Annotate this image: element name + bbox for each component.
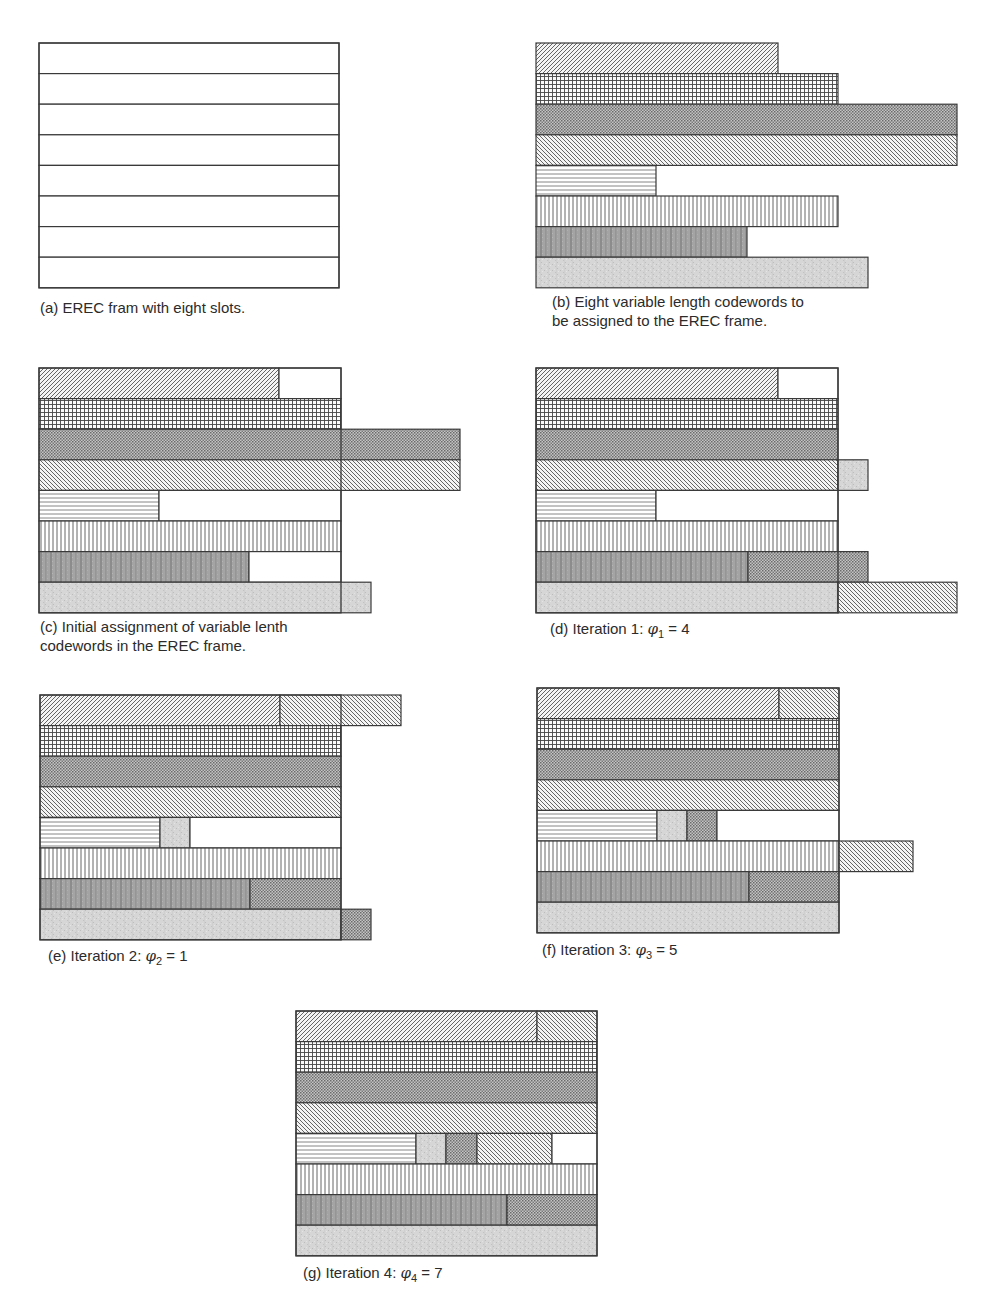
slot-row-8	[296, 1225, 597, 1256]
slot-row-5	[536, 165, 656, 196]
phi-symbol: φ	[401, 1264, 412, 1282]
slot-row-6	[537, 841, 913, 872]
slot-row-7	[536, 552, 868, 583]
codeword-1-forward-diagonal-hatch	[39, 368, 279, 399]
codeword-3-dark-crosshatch	[507, 1195, 597, 1226]
codeword-1-forward-diagonal-hatch	[536, 43, 778, 74]
codeword-8-light-grey-mottle	[537, 902, 839, 933]
codeword-3-dark-crosshatch	[537, 749, 839, 780]
codeword-7-dark-vertical-mottle	[40, 879, 250, 910]
codeword-3-dark-crosshatch	[40, 756, 341, 787]
slot-row-7	[39, 552, 341, 583]
caption-f: (f) Iteration 3: φ3 = 5	[542, 940, 677, 960]
codeword-6-vertical-lines	[40, 848, 341, 879]
empty-slot	[717, 810, 839, 841]
panel-a	[39, 43, 339, 288]
codeword-4-backward-diagonal-hatch	[39, 460, 460, 491]
empty-slot	[39, 165, 339, 196]
slot-row-1	[296, 1011, 597, 1042]
caption-b-line-2: be assigned to the EREC frame.	[552, 311, 804, 330]
codeword-2-fine-grid-hatch	[40, 726, 341, 757]
codeword-3-dark-crosshatch	[536, 429, 838, 460]
codeword-3-dark-crosshatch	[749, 872, 839, 903]
erec-diagram-svg	[0, 0, 995, 1311]
codeword-7-dark-vertical-mottle	[536, 552, 748, 583]
codeword-7-dark-vertical-mottle	[296, 1195, 507, 1226]
phi-symbol: φ	[635, 941, 646, 959]
slot-row-7	[296, 1195, 597, 1226]
slot-row-2	[536, 74, 838, 105]
codeword-5-horizontal-lines	[296, 1133, 416, 1164]
slot-row-3	[40, 756, 341, 787]
codeword-1-forward-diagonal-hatch	[40, 695, 280, 726]
empty-slot	[249, 552, 341, 583]
caption-g-text: (g) Iteration 4:	[303, 1264, 401, 1281]
slot-row-5	[296, 1133, 597, 1164]
codeword-5-horizontal-lines	[536, 490, 656, 521]
slot-row-4	[296, 1103, 597, 1134]
empty-slot	[159, 490, 341, 521]
codeword-4-backward-diagonal-hatch	[536, 460, 838, 491]
caption-b: (b) Eight variable length codewords to b…	[552, 292, 804, 330]
codeword-4-backward-diagonal-hatch	[40, 787, 341, 818]
codeword-2-fine-grid-hatch	[537, 719, 839, 750]
slot-row-8	[39, 582, 371, 613]
codeword-5-horizontal-lines	[537, 810, 657, 841]
caption-b-line-1: (b) Eight variable length codewords to	[552, 292, 804, 311]
empty-slot	[39, 74, 339, 105]
phi-symbol: φ	[146, 947, 157, 965]
codeword-6-vertical-lines	[536, 521, 838, 552]
caption-c-line-2: codewords in the EREC frame.	[40, 636, 288, 655]
codeword-3-dark-crosshatch	[446, 1133, 477, 1164]
slot-row-8	[39, 257, 339, 288]
codeword-1-forward-diagonal-hatch	[536, 368, 778, 399]
phi-value: = 1	[162, 947, 187, 964]
slot-row-7	[39, 227, 339, 258]
caption-f-text: (f) Iteration 3:	[542, 941, 635, 958]
slot-row-2	[39, 399, 341, 430]
slot-row-1	[537, 688, 839, 719]
slot-row-3	[39, 429, 460, 460]
slot-row-4	[537, 780, 839, 811]
panel-c	[39, 368, 460, 613]
codeword-7-dark-vertical-mottle	[536, 227, 747, 258]
slot-row-2	[296, 1042, 597, 1073]
codeword-2-fine-grid-hatch	[536, 74, 838, 105]
slot-row-6	[296, 1164, 597, 1195]
codeword-3-dark-crosshatch	[341, 909, 371, 940]
empty-slot	[190, 817, 341, 848]
codeword-3-dark-crosshatch	[536, 104, 957, 135]
codeword-7-dark-vertical-mottle	[537, 872, 749, 903]
codeword-4-backward-diagonal-hatch	[537, 780, 839, 811]
codeword-2-fine-grid-hatch	[39, 399, 341, 430]
codeword-3-dark-crosshatch	[687, 810, 717, 841]
slot-row-1	[536, 43, 778, 74]
slot-row-5	[39, 165, 339, 196]
slot-row-6	[40, 848, 341, 879]
slot-row-3	[536, 104, 957, 135]
codeword-1-forward-diagonal-hatch	[296, 1011, 537, 1042]
slot-row-5	[39, 490, 341, 521]
codeword-6-vertical-lines	[39, 521, 341, 552]
empty-slot	[39, 257, 339, 288]
empty-slot	[39, 196, 339, 227]
empty-slot	[656, 490, 838, 521]
codeword-2-fine-grid-hatch	[296, 1042, 597, 1073]
codeword-5-horizontal-lines	[40, 817, 160, 848]
caption-e-text: (e) Iteration 2:	[48, 947, 146, 964]
panel-d	[536, 368, 957, 613]
caption-a: (a) EREC fram with eight slots.	[40, 298, 245, 317]
codeword-4-backward-diagonal-hatch	[779, 688, 839, 719]
erec-figure: (a) EREC fram with eight slots. (b) Eigh…	[0, 0, 995, 1311]
slot-row-7	[537, 872, 839, 903]
slot-row-6	[536, 196, 838, 227]
panel-b	[536, 43, 957, 288]
empty-slot	[39, 104, 339, 135]
slot-row-3	[536, 429, 838, 460]
slot-row-1	[536, 368, 838, 399]
codeword-3-dark-crosshatch	[250, 879, 341, 910]
slot-row-1	[40, 695, 401, 726]
caption-d-text: (d) Iteration 1:	[550, 620, 648, 637]
slot-row-8	[536, 257, 868, 288]
panel-f	[537, 688, 913, 933]
